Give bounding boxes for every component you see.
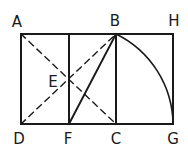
- label-f: F: [64, 132, 73, 147]
- label-a: A: [12, 15, 22, 30]
- arc-bg: [116, 34, 173, 124]
- label-d: D: [13, 132, 25, 147]
- solid-lines: [21, 34, 173, 124]
- label-b: B: [110, 14, 120, 29]
- line-fb: [69, 34, 116, 124]
- label-g: G: [167, 132, 179, 147]
- golden-rectangle-diagram: [0, 0, 188, 152]
- label-c: C: [111, 132, 121, 147]
- label-e: E: [48, 75, 57, 90]
- label-h: H: [168, 14, 179, 29]
